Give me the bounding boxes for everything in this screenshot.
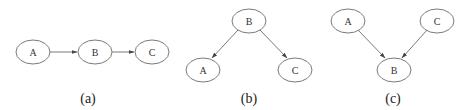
node-b-C: C bbox=[278, 58, 312, 82]
caption-c: (c) bbox=[385, 91, 401, 107]
causal-structures-diagram: A B C (a) B A C (b) bbox=[0, 0, 471, 110]
node-label: B bbox=[246, 16, 253, 27]
panel-a-chain: A B C (a) bbox=[16, 40, 169, 107]
panel-c-collider: A C B (c) bbox=[331, 9, 454, 107]
edge-c-C-to-B bbox=[402, 30, 427, 58]
node-c-C: C bbox=[420, 9, 454, 33]
node-label: B bbox=[92, 47, 99, 58]
node-a-A: A bbox=[16, 40, 50, 64]
caption-a: (a) bbox=[80, 91, 96, 107]
node-label: A bbox=[199, 65, 207, 76]
node-a-B: B bbox=[78, 40, 112, 64]
node-c-A: A bbox=[331, 9, 365, 33]
node-label: B bbox=[391, 65, 398, 76]
node-label: A bbox=[29, 47, 37, 58]
edge-c-A-to-B bbox=[358, 30, 385, 58]
node-label: C bbox=[149, 47, 156, 58]
node-c-B: B bbox=[377, 58, 411, 82]
edge-b-B-to-C bbox=[260, 30, 287, 58]
node-label: C bbox=[292, 65, 299, 76]
panel-b-fork: B A C (b) bbox=[186, 9, 312, 107]
node-b-B: B bbox=[232, 9, 266, 33]
node-label: C bbox=[434, 16, 441, 27]
node-a-C: C bbox=[135, 40, 169, 64]
caption-b: (b) bbox=[241, 91, 258, 107]
node-b-A: A bbox=[186, 58, 220, 82]
node-label: A bbox=[344, 16, 352, 27]
edge-b-B-to-A bbox=[212, 30, 238, 58]
